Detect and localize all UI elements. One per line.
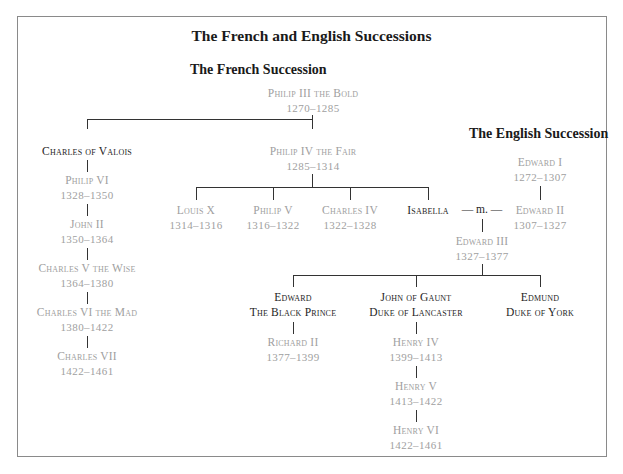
reign-years: 1316–1322 [246,218,299,233]
reign-years: 1307–1327 [513,218,566,233]
node-edward-iii: Edward III 1327–1377 [455,234,508,264]
reign-years: 1399–1413 [389,350,442,365]
ruler-name: Philip IV the Fair [270,144,357,159]
connector [87,119,88,129]
person-title: The Black Prince [250,305,336,320]
ruler-name: Philip V [246,203,299,218]
page-title: The French and English Successions [0,27,623,45]
person-name: Edward [250,290,336,305]
node-charles-iv: Charles IV 1322–1328 [322,203,378,233]
person-name: Edmund [506,290,574,305]
reign-years: 1272–1307 [513,170,566,185]
node-isabella: Isabella [407,203,448,218]
node-louis-x: Louis X 1314–1316 [169,203,222,233]
ruler-name: Edward I [513,155,566,170]
node-philip-v: Philip V 1316–1322 [246,203,299,233]
ruler-name: Charles VII [57,349,117,364]
reign-years: 1270–1285 [268,101,358,116]
connector [482,264,483,275]
connector [312,174,313,187]
ruler-name: Charles IV [322,203,378,218]
ruler-name: John II [60,217,113,232]
connector [87,248,88,260]
person-name: Charles of Valois [42,144,132,159]
connector [196,187,429,188]
person-title: Duke of Lancaster [369,305,462,320]
node-charles-of-valois: Charles of Valois [42,144,132,159]
ruler-name: Charles V the Wise [38,261,135,276]
reign-years: 1314–1316 [169,218,222,233]
reign-years: 1350–1364 [60,232,113,247]
english-succession-heading: The English Succession [469,126,608,142]
node-edmund: Edmund Duke of York [506,290,574,320]
ruler-name: Edward II [513,203,566,218]
person-name: John of Gaunt [369,290,462,305]
connector [196,187,197,200]
person-title: Duke of York [506,305,574,320]
node-philip-vi: Philip VI 1328–1350 [60,173,113,203]
node-henry-vi: Henry VI 1422–1461 [389,423,442,453]
connector [87,336,88,348]
node-john-of-gaunt: John of Gaunt Duke of Lancaster [369,290,462,320]
reign-years: 1380–1422 [37,320,137,335]
person-name: Isabella [407,203,448,218]
connector [293,322,294,334]
connector [482,219,483,232]
node-edward-ii: Edward II 1307–1327 [513,203,566,233]
node-richard-ii: Richard II 1377–1399 [266,335,319,365]
connector [540,275,541,287]
ruler-name: Richard II [266,335,319,350]
reign-years: 1364–1380 [38,276,135,291]
connector [87,204,88,216]
reign-years: 1327–1377 [455,249,508,264]
reign-years: 1328–1350 [60,188,113,203]
ruler-name: Edward III [455,234,508,249]
node-black-prince: Edward The Black Prince [250,290,336,320]
connector [87,292,88,304]
connector [87,119,313,120]
reign-years: 1322–1328 [322,218,378,233]
node-charles-vii: Charles VII 1422–1461 [57,349,117,379]
reign-years: 1413–1422 [389,394,442,409]
connector [293,275,294,287]
connector [312,119,313,129]
node-henry-iv: Henry IV 1399–1413 [389,335,442,365]
marriage-label: — m. — [462,203,503,215]
connector [416,275,417,287]
node-charles-v: Charles V the Wise 1364–1380 [38,261,135,291]
connector [293,275,541,276]
connector [428,187,429,200]
ruler-name: Louis X [169,203,222,218]
connector [416,322,417,334]
ruler-name: Charles VI the Mad [37,305,137,320]
node-philip-iii: Philip III the Bold 1270–1285 [268,86,358,116]
connector [87,160,88,172]
connector [350,187,351,200]
ruler-name: Henry V [389,379,442,394]
reign-years: 1422–1461 [57,364,117,379]
node-edward-i: Edward I 1272–1307 [513,155,566,185]
reign-years: 1285–1314 [270,159,357,174]
ruler-name: Henry IV [389,335,442,350]
connector [416,410,417,422]
node-john-ii: John II 1350–1364 [60,217,113,247]
ruler-name: Philip VI [60,173,113,188]
connector [540,186,541,200]
node-henry-v: Henry V 1413–1422 [389,379,442,409]
node-philip-iv: Philip IV the Fair 1285–1314 [270,144,357,174]
connector [416,366,417,378]
ruler-name: Henry VI [389,423,442,438]
node-charles-vi: Charles VI the Mad 1380–1422 [37,305,137,335]
reign-years: 1422–1461 [389,438,442,453]
connector [273,187,274,200]
french-succession-heading: The French Succession [190,62,327,78]
reign-years: 1377–1399 [266,350,319,365]
ruler-name: Philip III the Bold [268,86,358,101]
